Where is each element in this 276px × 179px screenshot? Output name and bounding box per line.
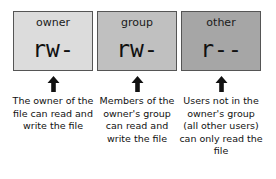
permission-group-label: group <box>121 16 153 29</box>
permission-column-group: group rw- Members of the owner's group c… <box>97 0 181 179</box>
permission-bits-group: rw- <box>116 36 158 62</box>
permissions-diagram: owner rw- The owner of the file can read… <box>0 0 276 179</box>
permission-box-owner: owner rw- <box>13 11 93 71</box>
permission-box-other: other r-- <box>181 11 261 71</box>
permission-column-owner: owner rw- The owner of the file can read… <box>13 0 97 179</box>
permission-bits-other: r-- <box>200 36 242 62</box>
permission-description-owner: The owner of the file can read and write… <box>11 95 95 133</box>
permission-description-other: Users not in the owner's group (all othe… <box>179 95 263 158</box>
arrow-up-icon <box>47 76 60 92</box>
arrow-up-icon <box>131 76 144 92</box>
arrow-up-icon <box>215 76 228 92</box>
permission-group-label: other <box>206 16 235 29</box>
permission-bits-owner: rw- <box>32 36 74 62</box>
permission-description-group: Members of the owner's group can read an… <box>95 95 179 145</box>
permission-group-label: owner <box>36 16 70 29</box>
permission-column-other: other r-- Users not in the owner's group… <box>181 0 265 179</box>
permission-box-group: group rw- <box>97 11 177 71</box>
